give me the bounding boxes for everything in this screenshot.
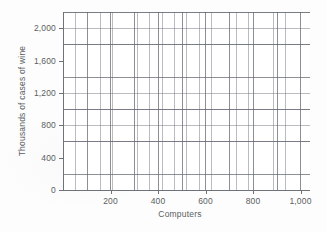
x-tick-label: 200	[103, 196, 118, 206]
y-tick	[59, 190, 63, 191]
x-tick-label: 1,000	[289, 196, 311, 206]
y-axis-line	[63, 12, 64, 190]
x-tick-label: 600	[198, 196, 213, 206]
chart-figure: 2004006008001,000 04008001,2001,6002,000…	[0, 0, 327, 232]
x-axis-line	[63, 190, 310, 191]
x-tick	[206, 190, 207, 194]
plot-area	[63, 12, 310, 190]
y-tick-label: 0	[51, 185, 56, 195]
y-tick-label: 1,200	[34, 88, 56, 98]
x-tick	[158, 190, 159, 194]
x-axis-title: Computers	[158, 209, 201, 219]
x-tick-label: 800	[246, 196, 261, 206]
y-tick	[59, 158, 63, 159]
y-axis-title: Thousands of cases of wine	[17, 46, 27, 157]
y-tick-label: 2,000	[34, 23, 56, 33]
y-tick	[59, 125, 63, 126]
x-tick-label: 400	[151, 196, 166, 206]
x-tick	[253, 190, 254, 194]
y-tick-label: 800	[41, 120, 56, 130]
x-tick	[301, 190, 302, 194]
x-tick	[111, 190, 112, 194]
y-tick	[59, 28, 63, 29]
y-tick-label: 400	[41, 153, 56, 163]
y-tick	[59, 61, 63, 62]
y-tick	[59, 93, 63, 94]
y-tick-label: 1,600	[34, 56, 56, 66]
grid-major-lines	[63, 12, 310, 190]
